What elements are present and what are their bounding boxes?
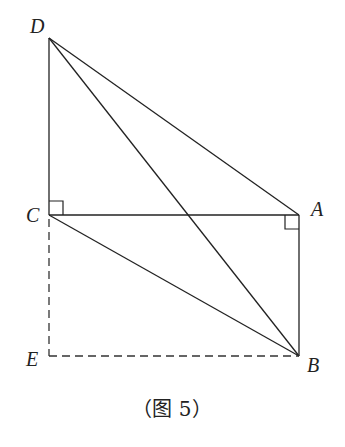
figure-caption: （图 5） bbox=[132, 397, 211, 421]
right-angle-marker-c bbox=[49, 201, 63, 215]
label-e: E bbox=[25, 348, 38, 370]
label-d: D bbox=[29, 15, 45, 37]
label-a: A bbox=[309, 198, 324, 220]
geometry-figure: D C A B E （图 5） bbox=[0, 0, 345, 447]
label-b: B bbox=[307, 354, 319, 376]
segment-da bbox=[49, 38, 299, 215]
segment-cb bbox=[49, 215, 299, 356]
right-angle-marker-a bbox=[285, 215, 299, 229]
label-c: C bbox=[26, 204, 40, 226]
segment-db bbox=[49, 38, 299, 356]
